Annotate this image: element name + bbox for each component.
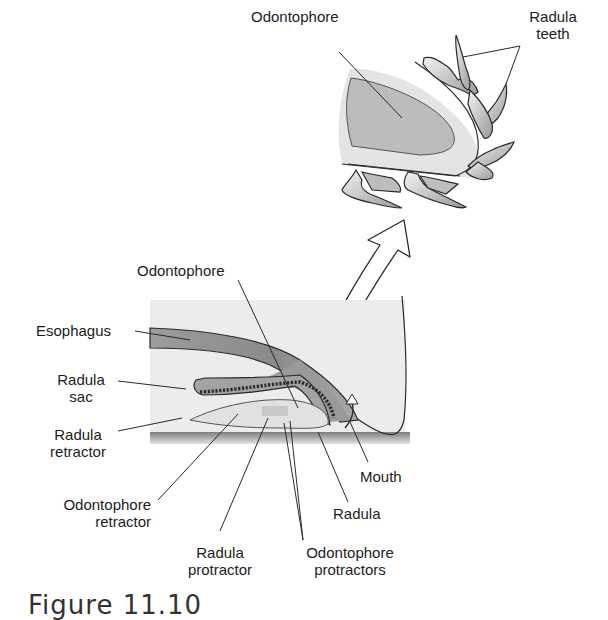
label-esophagus: Esophagus [36,322,111,339]
label-radula-protractor-line1: Radula [178,544,262,561]
label-odontophore-retractor-line1: Odontophore [36,496,151,513]
label-radula: Radula [333,505,381,522]
label-radula-retractor-line2: retractor [40,443,116,460]
label-radula-protractor: Radula protractor [178,544,262,578]
label-radula-retractor: Radula retractor [40,426,116,460]
odontophore-detail-illustration [339,35,520,208]
bleed-through-text [395,394,398,410]
label-radula-teeth: Radula teeth [526,8,580,42]
label-radula-retractor-line1: Radula [40,426,116,443]
label-odontophore-detail: Odontophore [251,8,339,25]
substrate [150,432,410,444]
label-radula-sac-line2: sac [50,388,112,405]
label-radula-sac-line1: Radula [50,371,112,388]
label-odontophore-retractor: Odontophore retractor [36,496,151,530]
label-odontophore-section: Odontophore [137,262,225,279]
label-radula-teeth-line1: Radula [526,8,580,25]
label-radula-protractor-line2: protractor [178,561,262,578]
label-radula-teeth-line2: teeth [526,25,580,42]
label-odontophore-protractors-line2: protractors [294,561,406,578]
label-odontophore-protractors: Odontophore protractors [294,544,406,578]
figure-caption: Figure 11.10 [28,590,202,620]
leader-radula-teeth-a [463,46,520,57]
label-odontophore-protractors-line1: Odontophore [294,544,406,561]
leader-radula-teeth-b [506,46,520,84]
label-mouth: Mouth [360,468,402,485]
label-odontophore-retractor-line2: retractor [36,513,151,530]
label-radula-sac: Radula sac [50,371,112,405]
